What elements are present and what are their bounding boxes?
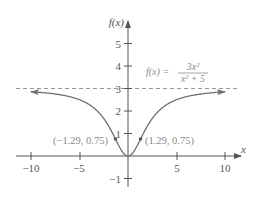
y-tick-label: 3 — [116, 83, 122, 95]
formula-annotation: f(x) = 3x² x² + 5 — [146, 61, 208, 84]
function-curve-left — [31, 92, 128, 156]
y-tick-label: 2 — [116, 105, 122, 117]
function-graph: −10 −5 5 10 5 4 3 2 1 −1 x f(x) (−1.29, … — [0, 0, 262, 198]
function-curve-right — [128, 92, 225, 156]
formula-lhs: f(x) = — [146, 66, 169, 78]
y-tick-label: −1 — [109, 173, 121, 185]
point-label-left: (−1.29, 0.75) — [53, 135, 108, 147]
point-label-right: (1.29, 0.75) — [145, 135, 194, 147]
y-tick-label: 5 — [116, 38, 122, 50]
x-tick-label: −5 — [73, 162, 85, 174]
x-tick-label: 10 — [220, 162, 232, 174]
y-axis-label: f(x) — [109, 16, 125, 29]
formula-numerator: 3x² — [186, 61, 200, 72]
formula-denominator: x² + 5 — [180, 73, 205, 84]
point-marker-left — [114, 137, 118, 141]
x-axis-label: x — [240, 143, 246, 155]
x-tick-label: −10 — [22, 162, 40, 174]
point-marker-right — [139, 137, 143, 141]
y-tick-label: 4 — [116, 60, 122, 72]
x-tick-label: 5 — [174, 162, 180, 174]
